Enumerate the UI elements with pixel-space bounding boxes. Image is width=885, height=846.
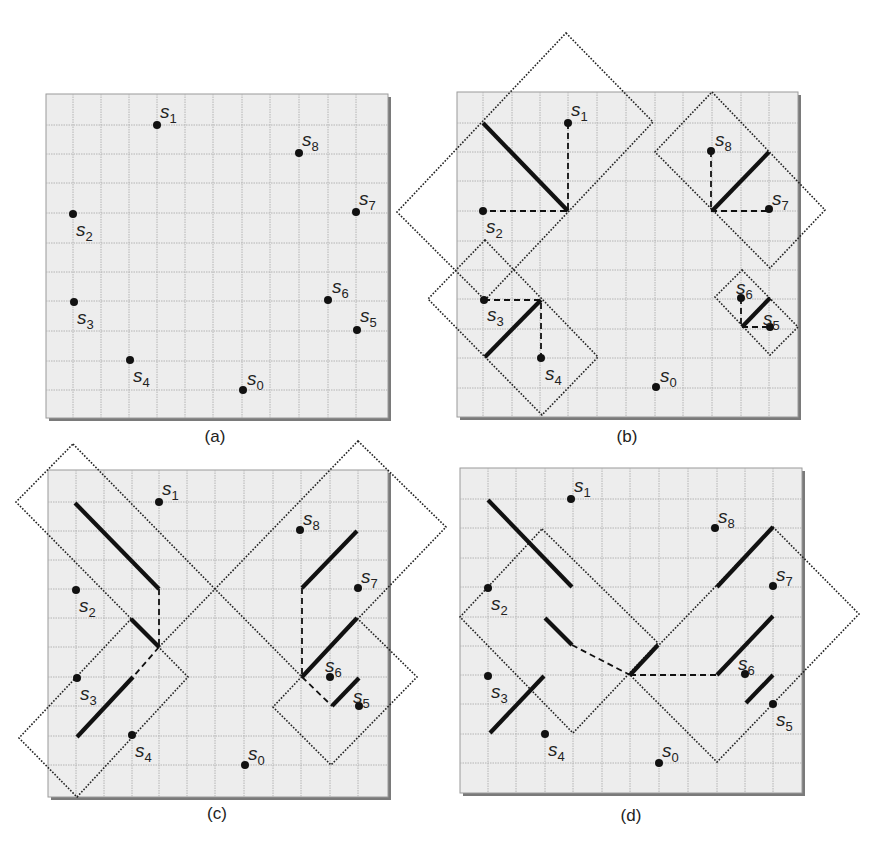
point-s3 — [73, 674, 81, 682]
point-s5 — [353, 326, 361, 334]
point-s5 — [769, 700, 777, 708]
point-s2 — [484, 584, 492, 592]
point-s6 — [324, 296, 332, 304]
panel-b: s0s1s2s3s4s5s6s7s8(b) — [397, 33, 825, 446]
panel-background — [460, 468, 802, 793]
point-s1 — [564, 119, 572, 127]
panel-background — [48, 470, 388, 797]
point-s0 — [652, 383, 660, 391]
point-s2 — [479, 207, 487, 215]
point-s4 — [128, 731, 136, 739]
point-s1 — [155, 498, 163, 506]
point-s2 — [69, 210, 77, 218]
panel-d: s0s1s2s3s4s5s6s7s8(d) — [460, 468, 859, 825]
point-s7 — [352, 208, 360, 216]
figure-canvas: s0s1s2s3s4s5s6s7s8(a) s0s1s2s3s4s5s6s7s8… — [0, 0, 885, 846]
point-s4 — [126, 356, 134, 364]
panel-caption: (a) — [205, 427, 226, 446]
point-s4 — [541, 730, 549, 738]
point-s3 — [70, 298, 78, 306]
point-s2 — [72, 586, 80, 594]
panel-caption: (c) — [207, 804, 227, 823]
point-s0 — [239, 386, 247, 394]
panel-c: s0s1s2s3s4s5s6s7s8(c) — [16, 441, 446, 823]
panel-caption: (b) — [617, 427, 638, 446]
panel-background — [457, 92, 798, 417]
point-s3 — [484, 672, 492, 680]
panel-caption: (d) — [621, 806, 642, 825]
point-s1 — [567, 495, 575, 503]
panel-a: s0s1s2s3s4s5s6s7s8(a) — [46, 94, 391, 446]
point-s4 — [537, 354, 545, 362]
panel-background — [46, 94, 388, 418]
point-s1 — [153, 121, 161, 129]
point-s8 — [295, 149, 303, 157]
point-s3 — [480, 296, 488, 304]
point-s8 — [707, 147, 715, 155]
